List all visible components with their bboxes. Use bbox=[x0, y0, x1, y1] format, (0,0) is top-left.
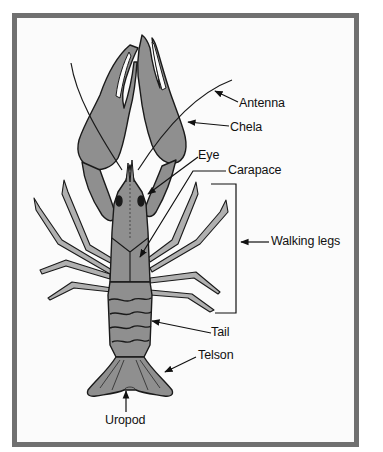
right-chela bbox=[138, 35, 186, 163]
telson-pointer bbox=[165, 357, 196, 372]
label-tail: Tail bbox=[211, 326, 229, 339]
left-eye bbox=[116, 196, 122, 206]
telson-shape bbox=[87, 357, 172, 396]
right-eye bbox=[138, 196, 144, 206]
left-chela bbox=[78, 45, 138, 170]
label-chela: Chela bbox=[230, 121, 262, 134]
label-eye: Eye bbox=[198, 149, 219, 162]
label-walking-legs: Walking legs bbox=[271, 235, 340, 248]
walking-legs-bracket bbox=[211, 184, 236, 313]
label-uropod: Uropod bbox=[105, 414, 145, 427]
right-cheliped-arm bbox=[144, 160, 176, 217]
tail-pointer bbox=[152, 321, 211, 333]
label-telson: Telson bbox=[198, 349, 234, 362]
left-cheliped-arm bbox=[82, 162, 116, 221]
label-antenna: Antenna bbox=[239, 97, 285, 110]
crayfish-illustration bbox=[0, 0, 383, 452]
antenna-pointer bbox=[215, 91, 238, 102]
label-carapace: Carapace bbox=[228, 164, 281, 177]
chela-pointer bbox=[188, 122, 229, 126]
tail-shape bbox=[108, 282, 152, 357]
